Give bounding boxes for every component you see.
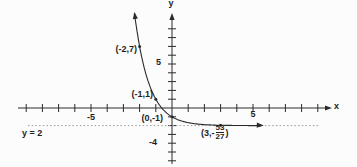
point-label-neg2-7: (-2,7) bbox=[115, 44, 137, 54]
x-axis-letter-label: x bbox=[334, 101, 339, 111]
fraction-label-suffix: ) bbox=[225, 128, 228, 138]
fraction-numerator: 53 bbox=[216, 124, 225, 132]
exponential-graph-figure: y x 5 -4 -5 5 (-2,7) (-1,1) (0,-1) (3,-5… bbox=[0, 0, 357, 167]
x-axis-tick-label-neg5: -5 bbox=[81, 112, 101, 122]
fraction-denominator: 27 bbox=[216, 132, 225, 141]
point-label-neg1-1: (-1,1) bbox=[131, 89, 153, 99]
graph-canvas bbox=[0, 0, 357, 167]
fraction-label-prefix: (3,- bbox=[201, 128, 215, 138]
x-axis-tick-label-5: 5 bbox=[243, 109, 263, 119]
asymptote-label: y = 2 bbox=[22, 128, 42, 138]
point-label-3-neg53-27: (3,-5327) bbox=[201, 124, 228, 141]
point-label-0-neg1: (0,-1) bbox=[141, 113, 163, 123]
fraction: 5327 bbox=[216, 124, 225, 141]
y-axis-letter-label: y bbox=[165, 0, 177, 8]
y-axis-tick-label-neg4: -4 bbox=[149, 137, 157, 147]
y-axis-tick-label-5: 5 bbox=[156, 57, 161, 67]
